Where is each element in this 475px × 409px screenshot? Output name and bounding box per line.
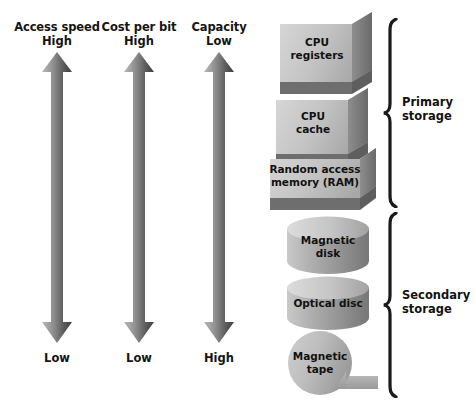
cube-side-face (352, 12, 372, 82)
storage-level-magnetic-disk: Magnetic disk (285, 216, 371, 276)
curly-brace-shape (384, 213, 396, 397)
double-arrow-shape (204, 52, 234, 343)
group-label-secondary-storage: Secondary storage (402, 288, 475, 316)
storage-level-magnetic-tape: Magnetic tape (282, 330, 378, 402)
curly-brace-shape (384, 19, 396, 207)
storage-level-ram: Random access memory (RAM) (266, 148, 384, 210)
metric-bottom-value-capacity: High (159, 351, 279, 365)
storage-level-optical-disc: Optical disc (285, 276, 371, 332)
bracket-secondary-storage (383, 212, 401, 398)
metric-top-value-capacity: Low (159, 34, 279, 48)
bracket-primary-storage (383, 18, 401, 208)
storage-level-cpu-registers: CPU registers (276, 12, 384, 94)
cylinder-top (287, 217, 369, 242)
arrow-capacity (159, 50, 279, 345)
double-arrow-shape (42, 52, 72, 343)
metric-title-capacity: Capacity (159, 20, 279, 34)
double-arrow-shape (124, 52, 154, 343)
group-label-primary-storage: Primary storage (402, 95, 472, 123)
cylinder-top (287, 277, 369, 300)
cube-base-front (270, 198, 360, 210)
metric-header-capacity: Capacity Low (159, 20, 279, 48)
